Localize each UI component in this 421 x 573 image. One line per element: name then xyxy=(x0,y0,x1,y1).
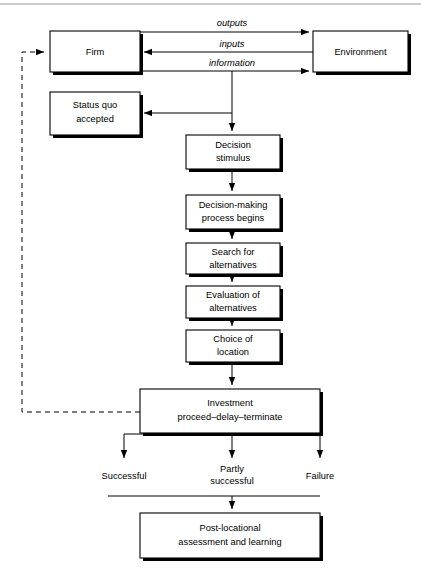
box-investment-line1: Investment xyxy=(207,398,253,408)
flowchart-diagram: Firm Environment Status quo accepted Dec… xyxy=(0,0,421,573)
box-decision-stimulus-line2: stimulus xyxy=(216,153,250,163)
box-firm[interactable]: Firm xyxy=(50,31,143,75)
box-environment-label: Environment xyxy=(334,47,387,57)
box-decision-making-line1: Decision-making xyxy=(199,200,268,210)
box-investment[interactable]: Investment proceed–delay–terminate xyxy=(140,389,323,436)
box-evaluation-of-alternatives[interactable]: Evaluation of alternatives xyxy=(186,286,283,321)
flow-label-outputs: outputs xyxy=(217,18,248,28)
box-search-line2: alternatives xyxy=(209,260,257,270)
figure-canvas: Firm Environment Status quo accepted Dec… xyxy=(0,0,421,573)
box-evaluation-line1: Evaluation of xyxy=(206,290,260,300)
box-search-for-alternatives[interactable]: Search for alternatives xyxy=(186,243,283,277)
box-status-quo-accepted[interactable]: Status quo accepted xyxy=(50,92,143,138)
box-post-locational-line2: assessment and learning xyxy=(178,537,281,547)
flow-label-information: information xyxy=(209,58,255,68)
box-investment-line2: proceed–delay–terminate xyxy=(178,412,283,422)
outcome-label-failure: Failure xyxy=(306,471,334,481)
outcome-label-partly-successful-line2: successful xyxy=(210,476,253,486)
box-post-locational-assessment[interactable]: Post-locational assessment and learning xyxy=(140,513,323,561)
flow-label-inputs: inputs xyxy=(220,39,245,49)
box-search-line1: Search for xyxy=(212,247,255,257)
box-choice-line2: location xyxy=(217,347,249,357)
box-decision-making-line2: process begins xyxy=(202,213,265,223)
box-firm-label: Firm xyxy=(86,47,105,57)
box-status-quo-line2: accepted xyxy=(76,114,114,124)
box-status-quo-line1: Status quo xyxy=(73,100,117,110)
outcome-label-successful: Successful xyxy=(102,471,147,481)
outcome-label-partly-successful-line1: Partly xyxy=(220,464,244,474)
box-environment[interactable]: Environment xyxy=(313,31,411,75)
box-evaluation-line2: alternatives xyxy=(209,303,257,313)
box-decision-stimulus-line1: Decision xyxy=(215,140,251,150)
box-post-locational-line1: Post-locational xyxy=(200,523,261,533)
box-choice-line1: Choice of xyxy=(213,334,253,344)
box-decision-making-process[interactable]: Decision-making process begins xyxy=(186,195,283,232)
box-decision-stimulus[interactable]: Decision stimulus xyxy=(186,135,283,172)
box-choice-of-location[interactable]: Choice of location xyxy=(186,330,283,365)
